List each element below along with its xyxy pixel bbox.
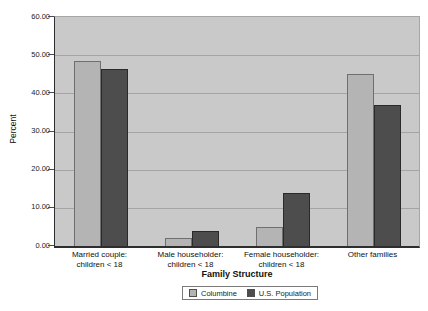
y-tick-label: 10.00 [20, 202, 50, 211]
category-label-line: children < 18 [54, 260, 145, 270]
y-tick-label: 60.00 [20, 12, 50, 21]
legend-label: U.S. Population [259, 289, 311, 298]
category-label-line: Other families [327, 250, 418, 260]
category-label-line: children < 18 [145, 260, 236, 270]
bar-u-s-population [192, 231, 219, 246]
legend-swatch-columbine [189, 289, 197, 297]
category-label: Female householder:children < 18 [236, 250, 327, 269]
y-tick-mark [48, 169, 54, 170]
category-label-line: Married couple: [54, 250, 145, 260]
bar-columbine [74, 61, 101, 247]
y-tick-mark [48, 54, 54, 55]
y-tick-label: 0.00 [20, 241, 50, 250]
category-label-line: children < 18 [236, 260, 327, 270]
legend-swatch-u-s-population [247, 289, 255, 297]
bar-columbine [165, 238, 192, 246]
legend-item: Columbine [189, 289, 237, 298]
bar-columbine [256, 227, 283, 246]
y-tick-mark [48, 207, 54, 208]
bar-u-s-population [374, 105, 401, 246]
category-label: Other families [327, 250, 418, 260]
y-tick-mark [48, 92, 54, 93]
x-axis-title: Family Structure [54, 269, 420, 279]
legend-label: Columbine [201, 289, 237, 298]
y-axis-title: Percent [8, 99, 18, 159]
y-tick-label: 20.00 [20, 164, 50, 173]
y-tick-label: 40.00 [20, 88, 50, 97]
gridline [55, 55, 419, 56]
bar-u-s-population [101, 69, 128, 246]
bar-u-s-population [283, 193, 310, 246]
legend: ColumbineU.S. Population [182, 286, 318, 300]
y-tick-label: 50.00 [20, 50, 50, 59]
category-label: Married couple:children < 18 [54, 250, 145, 269]
y-tick-mark [48, 131, 54, 132]
family-structure-bar-chart: Percent Family Structure ColumbineU.S. P… [0, 0, 428, 311]
category-label: Male householder:children < 18 [145, 250, 236, 269]
y-tick-mark [48, 16, 54, 17]
plot-area [54, 16, 420, 248]
bar-columbine [347, 74, 374, 247]
y-tick-mark [48, 245, 54, 246]
category-label-line: Male householder: [145, 250, 236, 260]
y-tick-label: 30.00 [20, 126, 50, 135]
category-label-line: Female householder: [236, 250, 327, 260]
legend-item: U.S. Population [247, 289, 311, 298]
